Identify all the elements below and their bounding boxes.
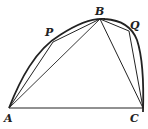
label-P: P [44, 26, 54, 39]
geometry-diagram: A B C P Q [0, 0, 148, 129]
label-C: C [130, 112, 139, 125]
label-Q: Q [130, 19, 140, 32]
segment-A-P [9, 42, 53, 108]
segment-A-B [9, 19, 100, 108]
segment-Q-C [129, 31, 143, 108]
segment-B-C [100, 19, 143, 108]
curve-APBQC [9, 19, 143, 112]
label-B: B [94, 5, 104, 18]
segment-P-B [53, 19, 100, 42]
label-A: A [3, 112, 13, 125]
